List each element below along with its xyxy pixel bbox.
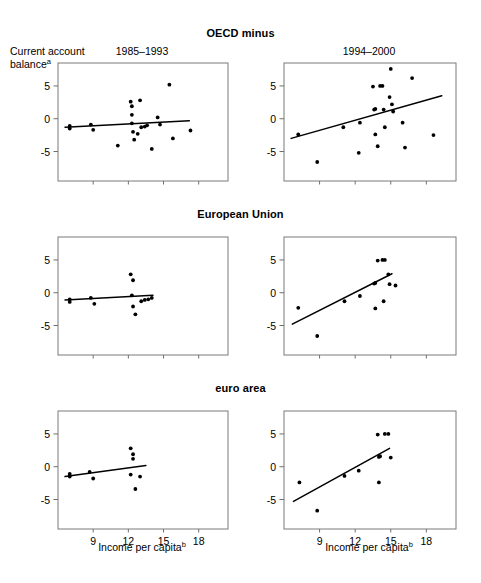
plot-frame <box>284 411 456 529</box>
row-title-european-union: European Union <box>0 208 481 220</box>
data-point <box>146 297 150 301</box>
row-title-oecd-minus: OECD minus <box>0 27 481 39</box>
data-point <box>341 125 345 129</box>
y-tick-label: -5 <box>267 146 276 158</box>
x-axis-caption-left-text: Income per capita <box>98 541 181 553</box>
y-tick-label: 0 <box>44 287 50 299</box>
data-point <box>91 477 95 481</box>
plot-frame <box>284 63 456 181</box>
data-point <box>132 138 136 142</box>
data-point <box>388 95 392 99</box>
data-point <box>343 299 347 303</box>
x-axis-caption-right-text: Income per capita <box>325 541 408 553</box>
data-point <box>133 312 137 316</box>
data-point <box>92 302 96 306</box>
data-point <box>386 272 390 276</box>
data-point <box>432 133 436 137</box>
data-point <box>371 85 375 89</box>
plot-area: -505 <box>57 62 229 190</box>
data-point <box>88 470 92 474</box>
data-point <box>89 123 93 127</box>
data-point <box>376 259 380 263</box>
data-point <box>391 110 395 114</box>
data-point <box>296 306 300 310</box>
data-point <box>138 475 142 479</box>
panel-title-oecd-left: 1985–1993 <box>57 45 227 57</box>
data-point <box>376 433 380 437</box>
data-point <box>138 98 142 102</box>
data-point <box>382 299 386 303</box>
plot-area: -5059121518 <box>283 410 457 554</box>
y-tick-label: -5 <box>267 494 276 506</box>
data-point <box>136 132 140 136</box>
data-point <box>129 473 133 477</box>
data-point <box>131 457 135 461</box>
data-point <box>68 127 72 131</box>
data-point <box>156 116 160 120</box>
data-point <box>130 104 134 108</box>
data-point <box>131 452 135 456</box>
data-point <box>357 469 361 473</box>
data-point <box>388 282 392 286</box>
data-point <box>394 284 398 288</box>
plot-area: -505 <box>57 236 229 364</box>
data-point <box>167 83 171 87</box>
data-point <box>68 475 72 479</box>
plot-area: -505 <box>283 236 457 364</box>
y-tick-label: 0 <box>270 113 276 125</box>
y-tick-label: 5 <box>270 428 276 440</box>
data-point <box>68 300 72 304</box>
data-point <box>91 128 95 132</box>
data-point <box>358 121 362 125</box>
data-point <box>130 121 134 125</box>
data-point <box>389 456 393 460</box>
y-tick-label: 0 <box>44 461 50 473</box>
plot-area: -5059121518 <box>57 410 229 554</box>
data-point <box>131 278 135 282</box>
data-point <box>315 160 319 164</box>
y-axis-caption-footnote: a <box>47 56 51 65</box>
plot-frame <box>58 63 228 181</box>
data-point <box>343 474 347 478</box>
data-point <box>386 432 390 436</box>
data-point <box>376 144 380 148</box>
x-axis-caption-right: Income per capitab <box>283 541 455 553</box>
scatter-panel-oecd-1985-1993: -505 <box>57 62 229 190</box>
data-point <box>377 481 381 485</box>
plot-frame <box>284 237 456 355</box>
y-tick-label: 0 <box>44 113 50 125</box>
data-point <box>373 281 377 285</box>
y-tick-label: 0 <box>270 461 276 473</box>
panel-title-oecd-right: 1994–2000 <box>283 45 455 57</box>
scatter-panel-eu-1994-2000: -505 <box>283 236 457 364</box>
data-point <box>383 258 387 262</box>
data-point <box>298 481 302 485</box>
y-tick-label: 5 <box>44 80 50 92</box>
data-point <box>129 446 133 450</box>
data-point <box>143 298 147 302</box>
y-tick-label: 5 <box>44 428 50 440</box>
data-point <box>296 133 300 137</box>
data-point <box>139 299 143 303</box>
data-point <box>171 136 175 140</box>
figure-canvas: OECD minus Current account balancea 1985… <box>0 0 481 583</box>
data-point <box>150 296 154 300</box>
data-point <box>373 107 377 111</box>
x-axis-caption-right-footnote: b <box>409 540 413 549</box>
data-point <box>189 129 193 133</box>
data-point <box>390 102 394 106</box>
row-title-euro-area: euro area <box>0 382 481 394</box>
y-tick-label: -5 <box>41 320 50 332</box>
data-point <box>130 113 134 117</box>
data-point <box>129 272 133 276</box>
data-point <box>133 487 137 491</box>
data-point <box>401 121 405 125</box>
data-point <box>383 432 387 436</box>
plot-area: -505 <box>283 62 457 190</box>
data-point <box>150 147 154 151</box>
y-axis-caption-line2: balance <box>10 58 47 70</box>
y-tick-label: -5 <box>267 320 276 332</box>
y-tick-label: 5 <box>270 254 276 266</box>
data-point <box>131 130 135 134</box>
data-point <box>378 454 382 458</box>
